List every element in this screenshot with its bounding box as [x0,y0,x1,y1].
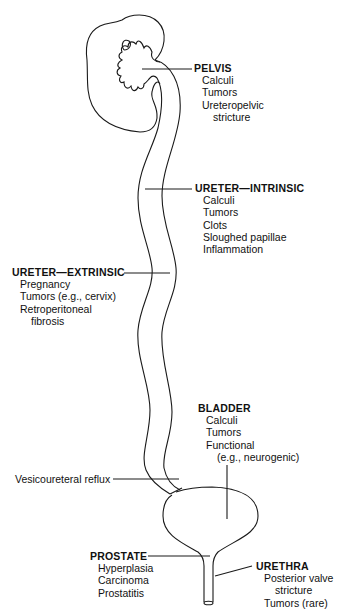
ureter-intrinsic-item: Clots [195,219,304,231]
bladder-item: (e.g., neurogenic) [198,451,299,463]
kidney-outline [86,15,164,132]
ureter-extrinsic-item: Pregnancy [12,278,125,290]
ureter-intrinsic-heading: URETER—INTRINSIC [195,182,304,194]
pelvis-item: Calculi [194,74,264,86]
calyx-loop [122,40,130,50]
ureter-extrinsic-item: Tumors (e.g., cervix) [12,290,125,302]
pelvis-item: stricture [194,111,264,123]
ureter-extrinsic-item: Retroperitoneal [12,303,125,315]
urethra-heading: URETHRA [256,560,333,572]
ureter-left-wall [138,78,170,494]
pelvis-item: Tumors [194,86,264,98]
bladder-item: Tumors [198,426,299,438]
bladder-heading: BLADDER [198,402,299,414]
urethra-item: stricture [256,584,333,596]
label-pelvis: PELVIS Calculi Tumors Ureteropelvic stri… [194,62,264,123]
ureter-intrinsic-item: Sloughed papillae [195,231,304,243]
label-bladder: BLADDER Calculi Tumors Functional (e.g.,… [198,402,299,463]
urethra-item: Posterior valve [256,572,333,584]
prostate-item: Carcinoma [90,574,153,586]
label-urethra: URETHRA Posterior valve stricture Tumors… [256,560,333,609]
bladder-item: Functional [198,439,299,451]
label-vesicoureteral-reflux: Vesicoureteral reflux [15,473,110,485]
ureter-intrinsic-item: Calculi [195,194,304,206]
prostate-item: Prostatitis [90,587,153,599]
label-prostate: PROSTATE Hyperplasia Carcinoma Prostatit… [90,550,153,599]
bladder-outline [163,487,258,602]
ureter-intrinsic-item: Tumors [195,206,304,218]
prostate-heading: PROSTATE [90,550,153,562]
label-ureter-intrinsic: URETER—INTRINSIC Calculi Tumors Clots Sl… [195,182,304,255]
urethra-item: Tumors (rare) [256,597,333,609]
label-ureter-extrinsic: URETER—EXTRINSIC Pregnancy Tumors (e.g.,… [12,266,125,327]
prostate-item: Hyperplasia [90,562,153,574]
urethra-meatus [204,601,213,605]
vesicoureteral-text: Vesicoureteral reflux [15,473,110,485]
bladder-item: Calculi [198,414,299,426]
ureter-intrinsic-item: Inflammation [195,243,304,255]
ureter-extrinsic-heading: URETER—EXTRINSIC [12,266,125,278]
pelvis-heading: PELVIS [194,62,264,74]
urethra-leader [215,566,252,576]
pelvis-item: Ureteropelvic [194,99,264,111]
ureter-extrinsic-item: fibrosis [12,315,125,327]
